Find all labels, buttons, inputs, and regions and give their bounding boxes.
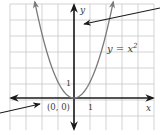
x-axis-label: x — [146, 103, 151, 113]
vertex-callout-arrow — [0, 104, 40, 113]
equation-exponent: 2 — [132, 42, 138, 50]
equation-base: y = x — [106, 43, 133, 54]
y-tick-label: 1 — [66, 79, 71, 88]
vertex-label: (0, 0) — [47, 102, 70, 112]
grid — [10, 4, 154, 130]
x-tick-label: 1 — [88, 103, 93, 112]
parabola-diagram: y x 1 1 (0, 0) y = x2 — [0, 0, 160, 135]
y-axis-label: y — [79, 5, 86, 15]
